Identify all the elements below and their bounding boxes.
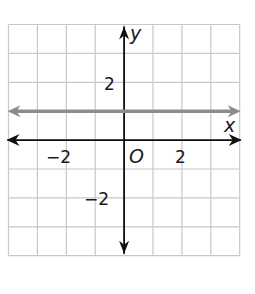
y-tick-label-neg2: −2 <box>84 191 109 208</box>
y-axis-label: y <box>130 24 141 43</box>
origin-label: O <box>129 147 144 166</box>
y-tick-label-2: 2 <box>104 76 115 93</box>
coordinate-plane <box>0 0 255 294</box>
x-axis-label: x <box>224 116 235 135</box>
x-tick-label-2: 2 <box>175 149 186 166</box>
x-tick-label-neg2: −2 <box>46 149 71 166</box>
axes <box>7 27 242 254</box>
